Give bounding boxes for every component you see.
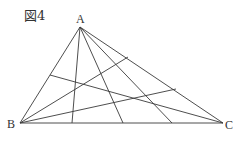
cevian-a-3 [80,27,172,123]
cevian-b-2 [20,89,176,123]
cevian-c-1 [50,75,223,123]
cevian-b-1 [20,57,128,123]
cevians-from-c [50,75,223,123]
vertex-label-b: B [7,117,15,131]
figure-caption: 図4 [24,8,45,23]
vertex-label-a: A [76,12,85,26]
vertex-label-c: C [225,118,233,132]
cevian-a-1 [72,27,80,123]
triangle-diagram: 図4 A B C [0,0,237,145]
